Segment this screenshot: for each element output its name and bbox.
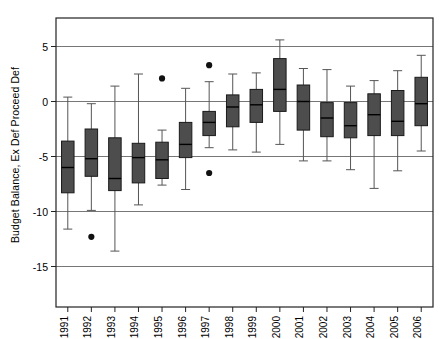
y-tick-label--10: -10 (33, 206, 48, 218)
outlier-point (88, 234, 94, 240)
outlier-point (159, 75, 165, 81)
box-iqr (274, 59, 287, 112)
y-axis-label-container: Budget Balance, Ex Def Proceed Def (2, 0, 28, 310)
y-tick-label-5: 5 (42, 41, 48, 53)
plot-svg: 50-5-10-15199119921993199419951996199719… (0, 0, 442, 339)
boxplot-2001[interactable] (297, 69, 310, 161)
boxplot-1993[interactable] (109, 86, 122, 251)
boxplot-2000[interactable] (274, 40, 287, 144)
x-tick-label-2005: 2005 (389, 316, 400, 339)
y-axis-label: Budget Balance, Ex Def Proceed Def (9, 67, 21, 243)
y-tick-label--5: -5 (39, 151, 48, 163)
boxplot-1998[interactable] (226, 74, 239, 150)
box-iqr (297, 85, 310, 130)
outlier-point (206, 170, 212, 176)
x-tick-label-2004: 2004 (365, 316, 376, 339)
x-tick-label-1995: 1995 (153, 316, 164, 339)
x-tick-label-2002: 2002 (318, 316, 329, 339)
boxplot-1991[interactable] (62, 97, 75, 229)
x-tick-label-1999: 1999 (247, 316, 258, 339)
box-iqr (226, 95, 239, 127)
outlier-point (206, 62, 212, 68)
box-iqr (391, 91, 404, 136)
boxplot-1996[interactable] (179, 88, 192, 189)
box-iqr (132, 143, 145, 183)
boxplot-2004[interactable] (368, 81, 381, 189)
boxes (62, 40, 428, 251)
box-iqr (415, 77, 428, 125)
y-axis (51, 47, 56, 267)
boxplot-1992[interactable] (85, 104, 98, 240)
box-iqr (203, 111, 216, 135)
x-tick-label-1998: 1998 (224, 316, 235, 339)
x-axis: 1991199219931994199519961997199819992000… (59, 307, 423, 338)
boxplot-2005[interactable] (391, 71, 404, 171)
y-tick-label-0: 0 (42, 96, 48, 108)
x-tick-label-1992: 1992 (82, 316, 93, 339)
x-tick-label-2001: 2001 (294, 316, 305, 339)
box-iqr (109, 138, 122, 191)
x-tick-label-2000: 2000 (271, 316, 282, 339)
x-tick-label-1993: 1993 (106, 316, 117, 339)
box-plot-figure: Budget Balance, Ex Def Proceed Def 50-5-… (0, 0, 442, 339)
box-iqr (85, 129, 98, 176)
boxplot-2002[interactable] (321, 70, 334, 161)
boxplot-2003[interactable] (344, 86, 357, 170)
boxplot-1994[interactable] (132, 74, 145, 205)
boxplot-1997[interactable] (203, 62, 216, 176)
x-tick-label-1996: 1996 (177, 316, 188, 339)
box-iqr (321, 103, 334, 137)
x-tick-label-1991: 1991 (59, 316, 70, 339)
boxplot-1999[interactable] (250, 73, 263, 152)
box-iqr (179, 122, 192, 157)
boxplot-2006[interactable] (415, 55, 428, 151)
box-iqr (250, 89, 263, 122)
x-tick-label-1994: 1994 (129, 316, 140, 339)
boxplot-1995[interactable] (156, 75, 169, 185)
box-iqr (344, 103, 357, 138)
y-tick-label--15: -15 (33, 261, 48, 273)
x-tick-label-2003: 2003 (342, 316, 353, 339)
x-tick-label-1997: 1997 (200, 316, 211, 339)
x-tick-label-2006: 2006 (412, 316, 423, 339)
